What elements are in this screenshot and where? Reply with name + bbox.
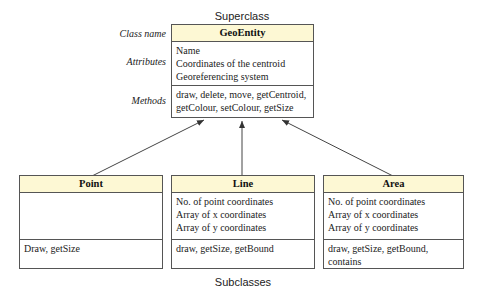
subclass-attributes: No. of point coordinates Array of x coor… xyxy=(324,193,463,239)
method-line: Draw, getSize xyxy=(24,242,158,255)
subclass-box-point: Point Draw, getSize xyxy=(19,175,163,269)
arrow-point-to-superclass xyxy=(92,120,204,176)
subclass-methods: Draw, getSize xyxy=(20,239,162,257)
attribute: Array of y coordinates xyxy=(328,221,459,234)
subclass-attributes xyxy=(20,193,162,239)
method-line: contains xyxy=(328,255,459,268)
attribute: Array of x coordinates xyxy=(328,208,459,221)
subclass-box-line: Line No. of point coordinates Array of x… xyxy=(171,175,315,269)
subclass-methods: draw, getSize, getBound xyxy=(172,239,314,257)
attribute: Array of x coordinates xyxy=(176,208,310,221)
attribute: No. of point coordinates xyxy=(176,195,310,208)
subclass-methods: draw, getSize, getBound, contains xyxy=(324,239,463,270)
subclass-attributes: No. of point coordinates Array of x coor… xyxy=(172,193,314,239)
attribute: Array of y coordinates xyxy=(176,221,310,234)
method-line: draw, getSize, getBound xyxy=(176,242,310,255)
subclass-name: Area xyxy=(324,176,463,193)
subclass-box-area: Area No. of point coordinates Array of x… xyxy=(323,175,464,269)
subclass-name: Point xyxy=(20,176,162,193)
attribute: No. of point coordinates xyxy=(328,195,459,208)
subclasses-caption: Subclasses xyxy=(171,276,315,288)
method-line: draw, getSize, getBound, xyxy=(328,242,459,255)
arrow-area-to-superclass xyxy=(282,120,393,176)
subclass-name: Line xyxy=(172,176,314,193)
